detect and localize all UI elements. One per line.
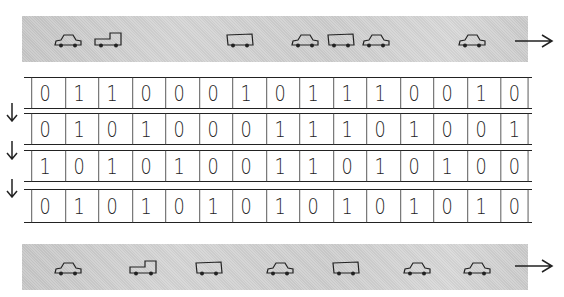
car-icon [265,258,295,278]
bit-cell: 1 [65,77,92,109]
bit-cell: 0 [434,77,461,109]
bit-cell: 0 [233,113,260,145]
bit-cell: 1 [400,189,427,223]
arrow-down-icon [5,102,19,122]
bit-cell: 1 [165,150,192,182]
car-icon [361,30,391,50]
car-icon [290,30,320,50]
bit-cell: 1 [300,150,327,182]
bit-cell: 0 [434,189,461,223]
bit-cell: 1 [333,189,360,223]
bit-cell: 0 [199,113,226,145]
register-row: 010100011101001 [24,113,532,145]
arrow-down-icon [5,140,19,160]
bit-cell: 0 [467,150,494,182]
bit-cell: 1 [467,77,494,109]
bit-cell: 1 [367,150,394,182]
bit-cell: 0 [233,150,260,182]
bit-cell: 1 [132,113,159,145]
truck-icon [93,30,123,50]
van-icon [225,30,255,50]
bit-cell: 1 [501,113,529,145]
bit-cell: 1 [333,113,360,145]
bit-cell: 0 [467,113,494,145]
car-icon [53,30,83,50]
bit-cell: 0 [31,113,58,145]
arrow-down-icon [5,178,19,198]
van-icon [194,258,224,278]
car-icon [457,30,487,50]
arrow-right-icon [514,258,554,274]
bit-cell: 1 [400,113,427,145]
bit-cell: 1 [65,189,92,223]
bit-cell: 1 [266,113,293,145]
car-icon [402,258,432,278]
bit-cell: 0 [165,77,192,109]
bit-cell: 0 [31,77,58,109]
truck-icon [128,258,158,278]
bit-cell: 0 [65,150,92,182]
bit-cell: 0 [333,150,360,182]
register-row: 010101010101010 [24,189,532,223]
bit-cell: 1 [434,150,461,182]
bit-cell: 0 [132,77,159,109]
bit-cell: 1 [98,77,125,109]
bit-cell: 0 [300,189,327,223]
bit-cell: 1 [65,113,92,145]
arrow-right-icon [514,33,554,49]
bit-cell: 0 [98,113,125,145]
register-row: 101010011010100 [24,150,532,182]
bit-cell: 1 [333,77,360,109]
bit-cell: 0 [165,189,192,223]
bit-cell: 1 [132,189,159,223]
bit-cell: 1 [31,150,58,182]
car-icon [53,258,83,278]
bit-cell: 0 [501,77,529,109]
bit-cell: 0 [165,113,192,145]
bit-cell: 1 [266,150,293,182]
bit-cell: 0 [400,77,427,109]
bit-cell: 1 [233,77,260,109]
car-icon [462,258,492,278]
bit-cell: 1 [300,113,327,145]
bit-cell: 0 [501,150,529,182]
bit-cell: 1 [300,77,327,109]
bit-cell: 1 [266,189,293,223]
bit-cell: 0 [199,150,226,182]
bit-cell: 0 [367,189,394,223]
bit-cell: 1 [199,189,226,223]
bit-cell: 1 [98,150,125,182]
bit-cell: 0 [233,189,260,223]
bit-cell: 0 [400,150,427,182]
bit-cell: 0 [98,189,125,223]
register-row: 011000101110010 [24,77,532,109]
bit-cell: 0 [31,189,58,223]
van-icon [331,258,361,278]
bit-cell: 1 [467,189,494,223]
bit-cell: 0 [132,150,159,182]
bit-cell: 0 [266,77,293,109]
van-icon [326,30,356,50]
bit-cell: 0 [434,113,461,145]
bit-cell: 0 [199,77,226,109]
bit-cell: 0 [367,113,394,145]
bit-cell: 0 [501,189,529,223]
bit-cell: 1 [367,77,394,109]
